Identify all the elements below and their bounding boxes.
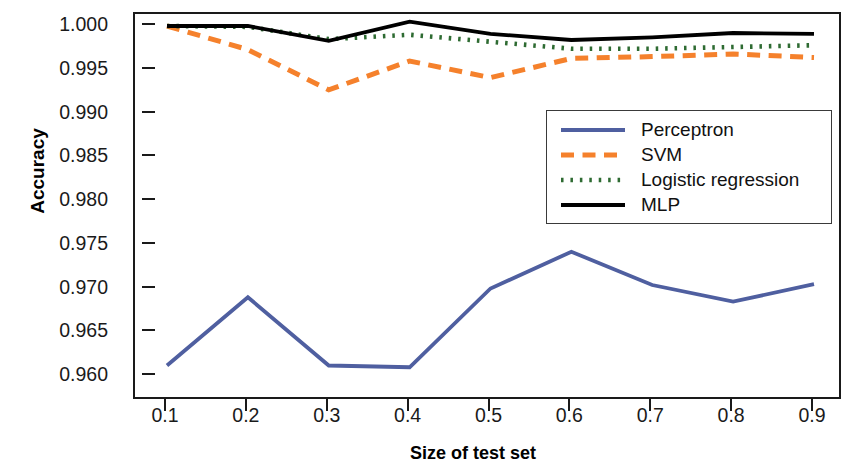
legend-item-svm[interactable]: SVM [547, 142, 831, 167]
legend-label: SVM [641, 145, 682, 164]
legend-swatch-icon [559, 170, 627, 190]
legend-label: Logistic regression [641, 170, 799, 189]
y-tick-label: 0.975 [22, 231, 108, 254]
series-line-mlp [167, 22, 814, 41]
chart-figure: Accuracy 1.0000.9950.9900.9850.9800.9750… [0, 0, 846, 473]
y-tick-label: 0.995 [22, 56, 108, 79]
series-line-perceptron [167, 252, 814, 368]
legend-item-mlp[interactable]: MLP [547, 192, 831, 217]
legend-swatch-icon [559, 120, 627, 140]
legend-item-perceptron[interactable]: Perceptron [547, 117, 831, 142]
y-tick-label: 0.980 [22, 188, 108, 211]
legend-label: MLP [641, 195, 680, 214]
legend-item-logistic-regression[interactable]: Logistic regression [547, 167, 831, 192]
legend-swatch-icon [559, 195, 627, 215]
y-tick-label: 0.965 [22, 319, 108, 342]
legend-label: Perceptron [641, 120, 734, 139]
y-tick-label: 0.985 [22, 144, 108, 167]
y-tick-label: 0.960 [22, 363, 108, 386]
y-tick-label: 0.970 [22, 275, 108, 298]
x-axis-title: Size of test set [133, 443, 813, 464]
legend-swatch-icon [559, 145, 627, 165]
y-tick-label: 0.990 [22, 100, 108, 123]
y-axis-tick-labels: 1.0000.9950.9900.9850.9800.9750.9700.965… [22, 0, 108, 473]
y-tick-label: 1.000 [22, 13, 108, 36]
chart-legend: PerceptronSVMLogistic regressionMLP [546, 110, 832, 224]
